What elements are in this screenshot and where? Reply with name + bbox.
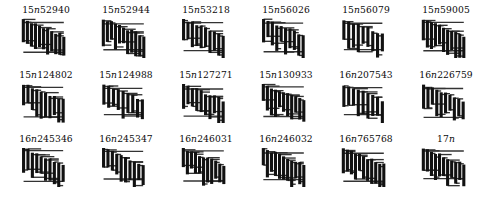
knot-label-index: 127271 [197, 69, 233, 80]
knot-label-index: 245346 [37, 133, 73, 144]
knot-diagram [18, 82, 74, 125]
knot-diagram [258, 17, 314, 60]
knot-label-variable: n [449, 133, 455, 144]
knot-cell: 16n245346 [6, 133, 86, 198]
knot-label: 16n246031 [179, 133, 233, 145]
knot-diagram [18, 146, 74, 189]
knot-label-index: 52940 [40, 4, 70, 15]
knot-label-index: 246031 [197, 133, 233, 144]
knot-label: 16n765768 [339, 133, 393, 145]
knot-label: 16n246032 [259, 133, 313, 145]
knot-label-prefix: 15 [99, 69, 111, 80]
knot-label-prefix: 16 [179, 133, 191, 144]
knot-label-prefix: 15 [102, 4, 114, 15]
knot-label: 15n52940 [22, 4, 70, 16]
knot-label-prefix: 15 [342, 4, 354, 15]
knot-label: 15n56079 [342, 4, 390, 16]
knot-label-prefix: 15 [182, 4, 194, 15]
knot-cell: 15n124988 [86, 69, 166, 134]
knot-label-prefix: 15 [262, 4, 274, 15]
knot-label: 15n56026 [262, 4, 310, 16]
knot-label-prefix: 16 [339, 69, 351, 80]
knot-label-prefix: 16 [99, 133, 111, 144]
knot-label: 15n124802 [19, 69, 73, 81]
knot-label: 16n245346 [19, 133, 73, 145]
knot-diagram [418, 146, 474, 189]
knot-label-index: 245347 [117, 133, 153, 144]
knot-diagram [338, 146, 394, 189]
knot-label-index: 246032 [277, 133, 313, 144]
knot-diagram [258, 146, 314, 189]
knot-cell: 15n52940 [6, 4, 86, 69]
knot-label-prefix: 15 [179, 69, 191, 80]
knot-cell: 16n246031 [166, 133, 246, 198]
knot-cell: 15n130933 [246, 69, 326, 134]
knot-diagram [418, 17, 474, 60]
knot-label-prefix: 17 [437, 133, 449, 144]
knot-label: 17n [437, 133, 455, 145]
knot-label-prefix: 16 [339, 133, 351, 144]
knot-cell: 15n56026 [246, 4, 326, 69]
knot-label: 15n127271 [179, 69, 233, 81]
knot-cell: 16n246032 [246, 133, 326, 198]
knot-table-figure: 15n5294015n5294415n5321815n5602615n56079… [0, 0, 492, 202]
knot-label: 16n207543 [339, 69, 393, 81]
knot-cell: 16n765768 [326, 133, 406, 198]
knot-label-index: 56079 [360, 4, 390, 15]
knot-diagram [178, 146, 234, 189]
knot-cell: 16n207543 [326, 69, 406, 134]
knot-label-index: 59005 [440, 4, 470, 15]
knot-cell: 15n127271 [166, 69, 246, 134]
knot-label-prefix: 16 [259, 133, 271, 144]
knot-diagram [418, 82, 474, 125]
knot-label-prefix: 15 [259, 69, 271, 80]
knot-label-index: 130933 [277, 69, 313, 80]
knot-label: 15n53218 [182, 4, 230, 16]
knot-label-prefix: 15 [22, 4, 34, 15]
knot-cell: 15n56079 [326, 4, 406, 69]
knot-cell: 15n53218 [166, 4, 246, 69]
knot-cell: 15n124802 [6, 69, 86, 134]
knot-cell: 15n59005 [406, 4, 486, 69]
knot-label-index: 765768 [357, 133, 393, 144]
knot-diagram [98, 82, 154, 125]
knot-label-prefix: 15 [19, 69, 31, 80]
knot-cell: 16n245347 [86, 133, 166, 198]
knot-label-index: 226759 [437, 69, 473, 80]
knot-diagram [258, 82, 314, 125]
knot-cell: 17n [406, 133, 486, 198]
knot-label-index: 124988 [117, 69, 153, 80]
knot-label-index: 53218 [200, 4, 230, 15]
knot-diagram [178, 82, 234, 125]
knot-label-index: 207543 [357, 69, 393, 80]
knot-label-index: 56026 [280, 4, 310, 15]
knot-diagram [338, 17, 394, 60]
knot-cell: 15n52944 [86, 4, 166, 69]
knot-label: 16n245347 [99, 133, 153, 145]
knot-label: 15n59005 [422, 4, 470, 16]
knot-label: 15n124988 [99, 69, 153, 81]
knot-label: 16n226759 [419, 69, 473, 81]
knot-label-index: 124802 [37, 69, 73, 80]
knot-diagram [98, 17, 154, 60]
knot-diagram [98, 146, 154, 189]
knot-diagram [178, 17, 234, 60]
knot-diagram [18, 17, 74, 60]
knot-diagram [338, 82, 394, 125]
knot-cell: 16n226759 [406, 69, 486, 134]
knot-label-index: 52944 [120, 4, 150, 15]
knot-label: 15n52944 [102, 4, 150, 16]
knot-label-prefix: 16 [19, 133, 31, 144]
knot-label-prefix: 16 [419, 69, 431, 80]
knot-label: 15n130933 [259, 69, 313, 81]
knot-label-prefix: 15 [422, 4, 434, 15]
